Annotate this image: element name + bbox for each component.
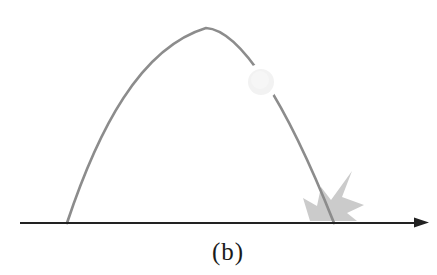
impact-burst-shape (303, 171, 364, 221)
projectile-diagram (0, 0, 437, 275)
projectile-motion-figure: (b) (0, 0, 437, 275)
trajectory-path (67, 28, 334, 223)
ball-highlight (251, 71, 269, 89)
figure-caption: (b) (190, 238, 266, 266)
arrow-head-icon (414, 218, 429, 228)
